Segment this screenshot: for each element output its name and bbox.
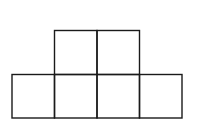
cell-bottom-4 [140, 75, 183, 119]
square-grid-diagram [0, 0, 203, 119]
cell-bottom-3 [97, 75, 140, 119]
cell-bottom-1 [12, 75, 55, 119]
cell-top-1 [55, 31, 98, 75]
bottom-row [12, 75, 182, 119]
cell-bottom-2 [55, 75, 98, 119]
top-row [55, 31, 140, 75]
cell-top-2 [97, 31, 140, 75]
